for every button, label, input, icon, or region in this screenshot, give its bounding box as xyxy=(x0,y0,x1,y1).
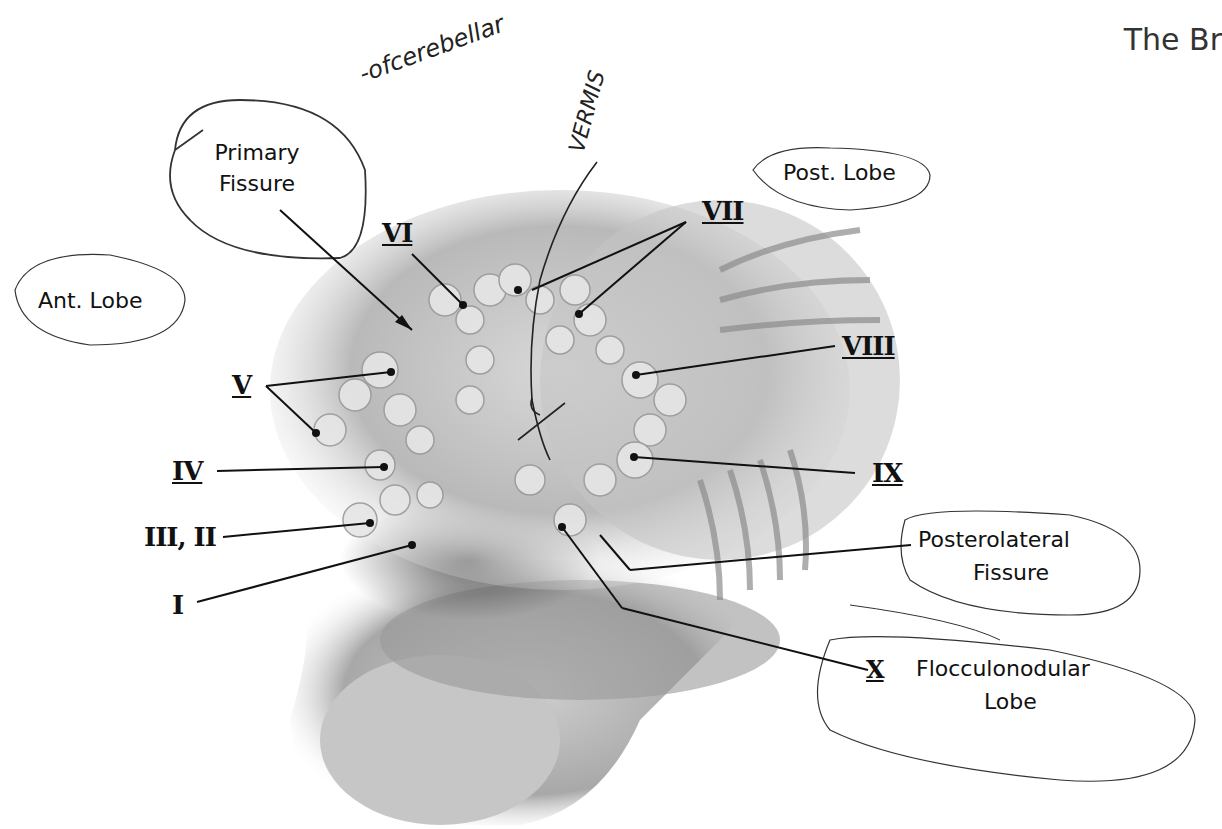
posterolateral-fissure-label: Posterolateral Fissure xyxy=(918,527,1070,585)
post-lobe-label: Post. Lobe xyxy=(783,160,896,185)
lobule-vii-label: VII xyxy=(702,196,744,226)
primary-fissure-label: Primary Fissure xyxy=(212,140,302,196)
ant-lobe-label: Ant. Lobe xyxy=(38,288,142,313)
lobule-iv-label: IV xyxy=(172,456,202,486)
lobule-ix-label: IX xyxy=(872,458,902,488)
lobule-vi-label: VI xyxy=(382,218,412,248)
flocculonodular-line1: Flocculonodular xyxy=(916,656,1090,681)
primary-fissure-line1: Primary xyxy=(212,140,302,165)
posterolateral-line2: Fissure xyxy=(973,560,1070,585)
lobule-i-label: I xyxy=(172,590,183,620)
lobule-x-label: X xyxy=(866,655,884,684)
lobule-v-label: V xyxy=(232,370,251,400)
lobule-iii-ii-label: III, II xyxy=(144,522,216,552)
posterolateral-line1: Posterolateral xyxy=(918,527,1070,552)
lobule-viii-label: VIII xyxy=(842,331,895,361)
flocculonodular-line2: Lobe xyxy=(984,689,1090,714)
flocculonodular-lobe-label: Flocculonodular Lobe xyxy=(916,656,1090,714)
primary-fissure-line2: Fissure xyxy=(212,171,302,196)
